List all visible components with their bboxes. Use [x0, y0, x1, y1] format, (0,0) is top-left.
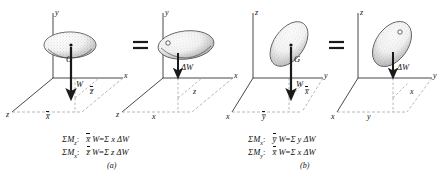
dim-label-b-right-2: x — [410, 87, 414, 96]
axis-label-b-right-up: z — [360, 8, 363, 17]
equation-b-row-2: ΣMy: x̅ W=Σ x ΔW — [248, 147, 316, 159]
force-label-a-left: W — [76, 79, 83, 89]
dim-label-b-left-2: x̅ — [305, 87, 309, 96]
body-texture — [157, 28, 216, 62]
axis-label-b-right-right: y — [433, 71, 437, 80]
axis-label-b-left-up: z — [255, 8, 258, 17]
panel-a-right — [122, 13, 233, 112]
force-label-b-right: ΔW — [397, 62, 409, 72]
projection-diagonal — [393, 82, 409, 98]
center-of-gravity-dot — [289, 43, 292, 46]
moment-symbol: ΣMx: — [248, 134, 266, 146]
moment-symbol: ΣMz: — [62, 134, 79, 146]
equation-a-row-2: ΣMx: z̅ W=Σ z ΔW — [62, 147, 129, 159]
center-of-gravity-dot — [69, 43, 72, 46]
axis-label-a-left-right: x — [124, 71, 128, 80]
equation-expression: x̅ W=Σ x ΔW — [273, 147, 316, 157]
equation-expression: y̅ W=Σ y ΔW — [273, 134, 316, 144]
body-texture — [262, 15, 315, 73]
axis-label-a-left-front: z — [6, 110, 9, 119]
axis-depth — [337, 78, 358, 112]
force-label-a-right: ΔW — [181, 62, 193, 72]
element-marker — [166, 41, 170, 45]
equation-a-row-1: ΣMz: x̅ W=Σ x ΔW — [62, 134, 129, 146]
panel-b-left — [232, 13, 323, 112]
moment-symbol: ΣMy: — [248, 147, 266, 159]
body-label-b-left: G — [294, 54, 300, 64]
axis-label-a-right-up: y — [165, 8, 169, 17]
dim-label-a-right-1: x — [152, 112, 156, 121]
dim-label-a-left-2: z̅ — [90, 87, 93, 96]
plane-edge-right — [82, 78, 123, 112]
moment-symbol: ΣMx: — [62, 147, 80, 159]
equation-expression: x̅ W=Σ x ΔW — [86, 134, 129, 144]
axis-label-b-right-front: x — [331, 112, 335, 121]
dim-label-a-left-1: x̅ — [46, 112, 50, 121]
axis-depth — [122, 78, 163, 112]
equation-expression: z̅ W=Σ z ΔW — [87, 147, 129, 157]
axis-label-a-right-right: x — [234, 71, 238, 80]
axis-label-a-right-front: z — [116, 110, 119, 119]
force-label-b-left: W — [296, 79, 303, 89]
projection-diagonal — [178, 78, 202, 98]
subfigure-caption-a: (a) — [107, 161, 116, 170]
panel-b-right — [337, 13, 432, 112]
axis-label-a-left-up: y — [55, 8, 59, 17]
subfigure-caption-b: (b) — [300, 161, 309, 170]
plane-edge-right — [192, 78, 233, 112]
dim-label-a-right-2: z — [193, 87, 196, 96]
equals-sign-b — [329, 42, 344, 48]
axis-label-b-left-right: y — [324, 71, 328, 80]
equation-b-row-1: ΣMx: y̅ W=Σ y ΔW — [248, 134, 316, 146]
dim-label-b-right-1: y — [367, 112, 371, 121]
axis-depth — [12, 78, 53, 112]
equals-sign-a — [133, 42, 148, 48]
axis-label-b-left-front: x — [226, 112, 230, 121]
dim-label-b-left-1: y̅ — [262, 112, 266, 121]
element-marker — [398, 30, 402, 34]
body-label-a-left: G — [66, 54, 72, 64]
axis-depth — [232, 78, 253, 112]
figure-root: y x z G W x̅ z̅ y x z ΔW x z z y x G W y… — [0, 0, 442, 178]
